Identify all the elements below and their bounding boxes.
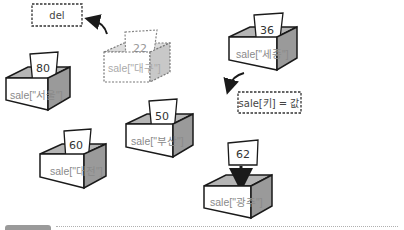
- value-card: 62: [236, 148, 250, 161]
- assign-label: sale[키] = 값: [239, 98, 300, 109]
- box-seoul: 80 sale["서울"]: [6, 52, 70, 110]
- footer-divider: [56, 226, 398, 227]
- delete-label: del: [49, 10, 64, 21]
- key-label: sale["세종"]: [236, 48, 289, 60]
- value-card: 60: [69, 139, 83, 152]
- key-label: sale["대구"]: [108, 62, 161, 74]
- footer-tab: [5, 225, 51, 230]
- box-gwangju: 62 sale["광주"]: [204, 140, 272, 218]
- key-label: sale["대전"]: [50, 165, 103, 177]
- key-label: sale["부산"]: [131, 135, 184, 147]
- value-card: 50: [155, 110, 169, 123]
- key-label: sale["서울"]: [10, 89, 63, 101]
- value-card: 80: [36, 62, 50, 75]
- box-sejong: 36 sale["세종"]: [229, 13, 297, 70]
- box-busan: 50 sale["부산"]: [126, 99, 193, 157]
- assign-arrow-icon: [229, 73, 244, 87]
- assign-label-box: sale[키] = 값: [238, 92, 301, 113]
- box-daejeon: 60 sale["대전"]: [40, 129, 106, 188]
- value-card: 36: [260, 24, 274, 37]
- delete-arrow-icon: [92, 20, 107, 34]
- key-label: sale["광주"]: [210, 196, 263, 208]
- delete-label-box: del: [32, 4, 82, 26]
- dictionary-diagram: del 22 sale["대구"] 80 sale["서울"] 36 sale[…: [0, 0, 404, 230]
- box-daegu: 22 sale["대구"]: [104, 30, 170, 82]
